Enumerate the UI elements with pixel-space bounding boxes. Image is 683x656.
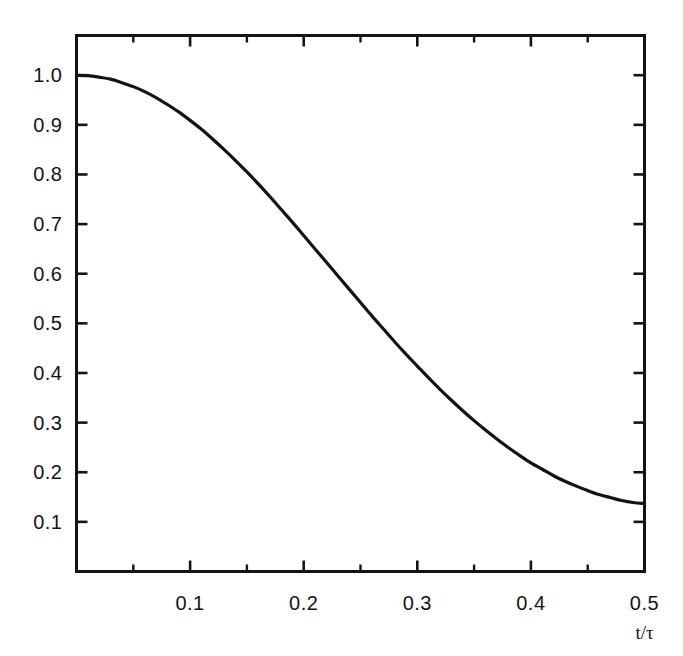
y-axis-tick-label: 0.8	[33, 164, 62, 184]
y-axis-ticks-left	[77, 75, 88, 522]
y-axis-tick-label: 0.3	[33, 413, 62, 433]
x-axis-tick-label: 0.5	[605, 593, 683, 613]
data-series-curve	[77, 75, 645, 503]
y-axis-tick-label: 0.1	[33, 512, 62, 532]
x-axis-tick-label: 0.3	[377, 593, 457, 613]
y-axis-tick-label: 0.7	[33, 214, 62, 234]
y-axis-tick-label: 0.6	[33, 264, 62, 284]
x-axis-tick-label: 0.4	[491, 593, 571, 613]
plot-canvas	[0, 0, 683, 656]
y-axis-tick-label: 0.2	[33, 462, 62, 482]
y-axis-tick-label: 0.4	[33, 363, 62, 383]
x-axis-ticks-bottom	[133, 561, 644, 572]
x-axis-title: t/τ	[605, 623, 683, 642]
x-axis-tick-label: 0.1	[150, 593, 230, 613]
y-axis-tick-label: 0.9	[33, 115, 62, 135]
y-axis-tick-label: 0.5	[33, 313, 62, 333]
x-axis-tick-label: 0.2	[264, 593, 344, 613]
y-axis-tick-label: 1.0	[33, 65, 62, 85]
x-axis-ticks-top	[133, 36, 644, 47]
figure-container: 0.10.20.30.40.50.60.70.80.91.0 0.10.20.3…	[0, 0, 683, 656]
y-axis-ticks-right	[634, 75, 645, 522]
